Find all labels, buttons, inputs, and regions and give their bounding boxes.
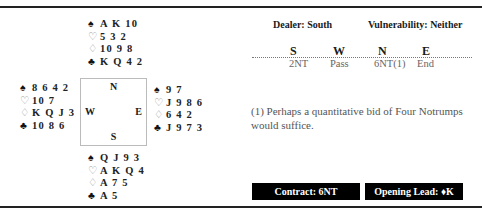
heart-icon: ♡ <box>154 97 166 110</box>
east-spades: 9 7 <box>166 84 183 95</box>
bid-east: End <box>417 58 434 69</box>
opening-lead-badge: Opening Lead: ♦K <box>365 183 463 200</box>
top-rule <box>0 6 482 8</box>
south-hearts: A K Q 4 <box>100 165 145 176</box>
auction-header: S W N E <box>252 44 472 57</box>
diamond-icon: ♢ <box>20 107 32 120</box>
south-spades: Q J 9 3 <box>100 152 140 163</box>
north-hand: ♠A K 10 ♡5 3 2 ♢10 9 8 ♣K Q 4 2 <box>88 18 143 68</box>
west-clubs: 10 8 6 <box>32 120 65 131</box>
north-diamonds: 10 9 8 <box>100 43 133 54</box>
compass-east: E <box>135 106 142 117</box>
north-clubs: K Q 4 2 <box>100 56 143 67</box>
west-diamonds: K Q J 3 <box>32 107 75 118</box>
compass-box: N W E S <box>80 78 147 146</box>
contract-badge: Contract: 6NT <box>252 183 360 200</box>
auction-row: 2NT Pass 6NT(1) End <box>252 58 472 70</box>
east-clubs: J 9 7 3 <box>166 122 203 133</box>
north-hearts: 5 3 2 <box>100 31 127 42</box>
spade-icon: ♠ <box>88 152 100 165</box>
club-icon: ♣ <box>20 120 32 133</box>
diamond-icon: ♢ <box>88 43 100 56</box>
west-hand: ♠8 6 4 2 ♡10 7 ♢K Q J 3 ♣10 8 6 <box>20 82 75 132</box>
compass-south: S <box>81 131 146 142</box>
south-hand: ♠Q J 9 3 ♡A K Q 4 ♢A 7 5 ♣A 5 <box>88 152 145 202</box>
diamond-icon: ♢ <box>154 109 166 122</box>
west-hearts: 10 7 <box>32 95 55 106</box>
east-hand: ♠9 7 ♡J 9 8 6 ♢6 4 2 ♣J 9 7 3 <box>154 84 203 134</box>
club-icon: ♣ <box>88 190 100 203</box>
east-hearts: J 9 8 6 <box>166 97 203 108</box>
bid-south: 2NT <box>289 58 308 69</box>
west-spades: 8 6 4 2 <box>32 82 69 93</box>
heart-icon: ♡ <box>88 165 100 178</box>
heart-icon: ♡ <box>88 31 100 44</box>
heart-icon: ♡ <box>20 95 32 108</box>
south-clubs: A 5 <box>100 190 118 201</box>
south-diamonds: A 7 5 <box>100 177 129 188</box>
club-icon: ♣ <box>88 56 100 69</box>
compass-north: N <box>81 81 146 92</box>
vulnerability-label: Vulnerability: Neither <box>368 19 462 30</box>
club-icon: ♣ <box>154 122 166 135</box>
spade-icon: ♠ <box>88 18 100 31</box>
spade-icon: ♠ <box>154 84 166 97</box>
auction-note: (1) Perhaps a quantitative bid of Four N… <box>251 104 475 132</box>
dealer-label: Dealer: South <box>273 19 332 30</box>
bid-north: 6NT(1) <box>374 58 406 69</box>
diamond-icon: ♢ <box>88 177 100 190</box>
bottom-rule <box>0 206 482 208</box>
bid-west: Pass <box>330 58 349 69</box>
north-spades: A K 10 <box>100 18 138 29</box>
spade-icon: ♠ <box>20 82 32 95</box>
east-diamonds: 6 4 2 <box>166 109 193 120</box>
compass-west: W <box>85 106 95 117</box>
